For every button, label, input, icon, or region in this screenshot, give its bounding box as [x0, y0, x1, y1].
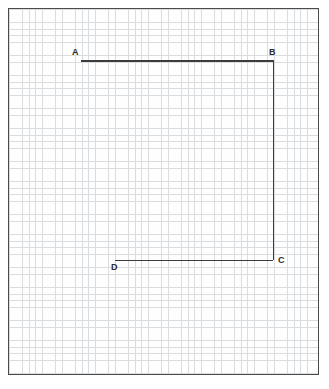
segment-BC [273, 60, 275, 260]
vertex-label-a: A [72, 48, 79, 57]
vertex-label-d: D [111, 263, 118, 272]
segment-AB [81, 60, 274, 62]
diagram-canvas: A B C D [0, 0, 329, 389]
vertex-label-b: B [269, 48, 276, 57]
graph-paper-sheet: A B C D [8, 8, 319, 375]
vertex-label-c: C [278, 256, 285, 265]
segment-DC [115, 260, 273, 262]
